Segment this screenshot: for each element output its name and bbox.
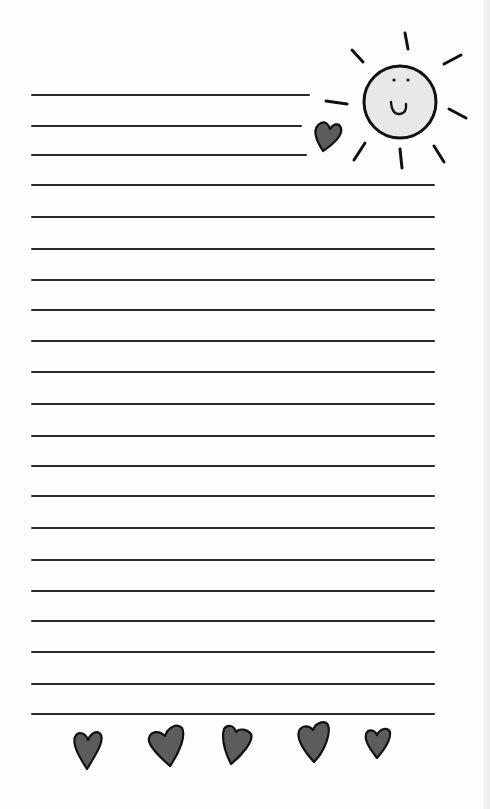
heart-icon: [149, 726, 183, 766]
smiling-sun-icon: [326, 33, 466, 168]
heart-icon: [298, 722, 328, 762]
page-edge-shadow: [483, 0, 490, 809]
decorations: [0, 0, 490, 809]
heart-icon: [74, 732, 101, 769]
heart-icon: [366, 729, 390, 758]
stationery-page: lined-stationery: [0, 0, 490, 809]
heart-icon: [223, 726, 251, 764]
heart-icon: [315, 122, 341, 151]
